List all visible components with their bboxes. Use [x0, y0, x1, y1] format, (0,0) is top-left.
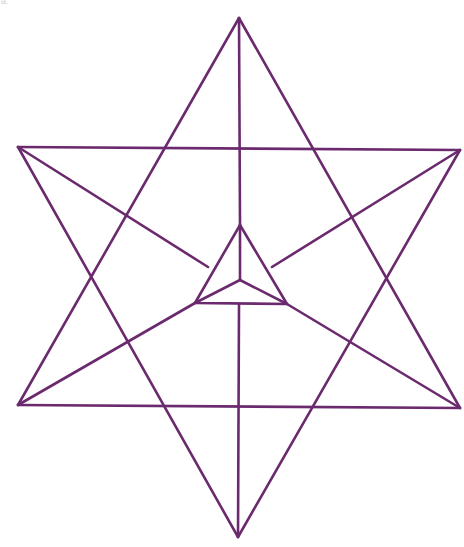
edge-upper-right-to-bottom	[238, 150, 460, 537]
vertical-axis-top	[239, 18, 240, 225]
connector-upper-left	[18, 147, 208, 267]
connector-lower-left	[18, 303, 195, 405]
edge-apex-to-lower-right	[239, 18, 460, 408]
connector-upper-right	[272, 150, 460, 267]
vertical-axis-bottom	[238, 304, 239, 537]
edge-apex-to-lower-left	[18, 18, 239, 405]
connector-lower-right	[287, 304, 460, 408]
star-tetrahedron-diagram	[0, 0, 464, 547]
